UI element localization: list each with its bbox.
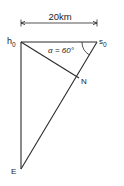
angle-label: α = 60° xyxy=(48,46,75,55)
point-label-E: E xyxy=(11,167,16,176)
dimension-indicator: 20km xyxy=(21,11,97,27)
point-label-h0: h0 xyxy=(7,36,16,48)
point-label-N: N xyxy=(81,77,87,86)
geometry-diagram: 20km α = 60° h0 s0 N E xyxy=(0,0,124,186)
segment-s0-E xyxy=(21,42,97,169)
angle-arc xyxy=(82,42,89,55)
point-label-s0: s0 xyxy=(99,37,107,48)
dimension-label: 20km xyxy=(48,11,71,22)
